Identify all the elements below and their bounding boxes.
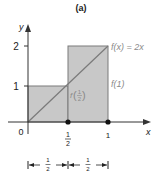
y-axis-arrow-icon [25,24,31,32]
interval-1-den: 2 [46,166,50,172]
right-rectangle [68,46,108,122]
x-point-one [105,119,110,124]
interval-bracket-2: 1 2 [68,157,108,172]
panel-label: (a) [76,3,87,13]
left-rect-label-paren-close: ) [82,89,86,101]
y-axis-label: y [18,22,24,32]
interval-1-num: 1 [46,157,50,163]
interval-bracket-1: 1 2 [28,157,67,172]
x-tick-half-den: 2 [66,140,70,147]
interval-2-num: 1 [86,157,90,163]
function-label: f(x) = 2x [111,42,144,52]
y-tick-label-2: 2 [13,41,19,52]
interval-2-den: 2 [86,166,90,172]
x-tick-one: 1 [106,131,111,140]
left-rect-label-paren-open: ( [73,89,77,101]
x-axis-arrow-icon [143,119,151,125]
right-rect-label: f(1) [111,79,125,89]
x-tick-half-num: 1 [66,131,70,138]
y-tick-label-1: 1 [13,81,19,92]
x-point-half [65,119,70,124]
origin-label: 0 [18,127,23,137]
riemann-sum-diagram: (a) y 2 1 0 x 1 2 1 f(x) = 2x f(1) f ( 1… [0,0,162,176]
x-axis-label: x [145,127,151,137]
